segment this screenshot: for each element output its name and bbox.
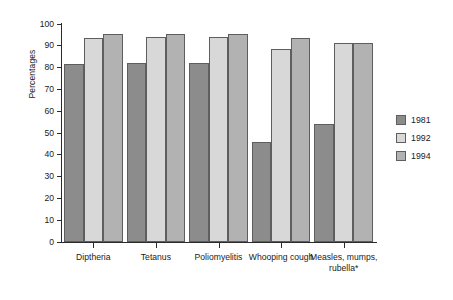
y-axis-tick-label: 40 (44, 148, 54, 161)
legend-item[interactable]: 1994 (396, 148, 431, 163)
bar (314, 124, 334, 242)
y-axis-tick-label: 60 (44, 105, 54, 118)
x-axis-tick-mark (281, 243, 282, 248)
y-axis-tick-label: 70 (44, 83, 54, 96)
legend-swatch-icon (396, 133, 406, 143)
bar (334, 43, 354, 242)
bar (189, 63, 209, 242)
bar (127, 63, 147, 242)
x-axis-label: Measles, mumps, rubella* (296, 252, 392, 273)
bar (228, 34, 248, 242)
y-axis-title: Percentages (27, 34, 39, 114)
legend-item-label: 1994 (411, 151, 431, 161)
bar (271, 49, 291, 242)
bar (252, 142, 272, 242)
bar (103, 34, 123, 242)
chart-legend: 198119921994 (396, 112, 431, 166)
y-axis-tick-label: 20 (44, 192, 54, 205)
bar (353, 43, 373, 242)
legend-item-label: 1992 (411, 133, 431, 143)
y-axis-tick-label: 30 (44, 170, 54, 183)
bar (84, 38, 104, 242)
x-axis-tick-mark (219, 243, 220, 248)
y-axis-tick-label: 50 (44, 127, 54, 140)
x-axis-tick-mark (93, 243, 94, 248)
legend-item-label: 1981 (411, 115, 431, 125)
x-axis-tick-mark (344, 243, 345, 248)
y-axis-tick-label: 0 (49, 236, 54, 249)
bar (166, 34, 186, 242)
bar (64, 64, 84, 242)
legend-swatch-icon (396, 151, 406, 161)
plot-area (62, 24, 375, 242)
bar-chart: Percentages 1009080706050403020100 Dipth… (0, 0, 453, 300)
legend-swatch-icon (396, 115, 406, 125)
legend-item[interactable]: 1981 (396, 112, 431, 127)
bar (146, 37, 166, 242)
y-axis-tick-label: 10 (44, 214, 54, 227)
legend-item[interactable]: 1992 (396, 130, 431, 145)
y-axis-tick-label: 100 (40, 18, 54, 31)
bar (209, 37, 229, 242)
bar (291, 38, 311, 242)
y-axis-tick-label: 90 (44, 39, 54, 52)
y-axis-tick-label: 80 (44, 61, 54, 74)
x-axis-tick-mark (156, 243, 157, 248)
